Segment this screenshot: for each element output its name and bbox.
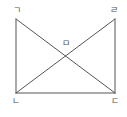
label-intersection-point: ㅁ <box>62 39 70 48</box>
label-bottom-left-vertex: ㄴ <box>12 97 20 106</box>
label-bottom-right-vertex: ㄷ <box>111 97 119 106</box>
label-top-right-vertex: ㄹ <box>110 6 118 15</box>
label-top-left-vertex: ㄱ <box>13 6 21 15</box>
